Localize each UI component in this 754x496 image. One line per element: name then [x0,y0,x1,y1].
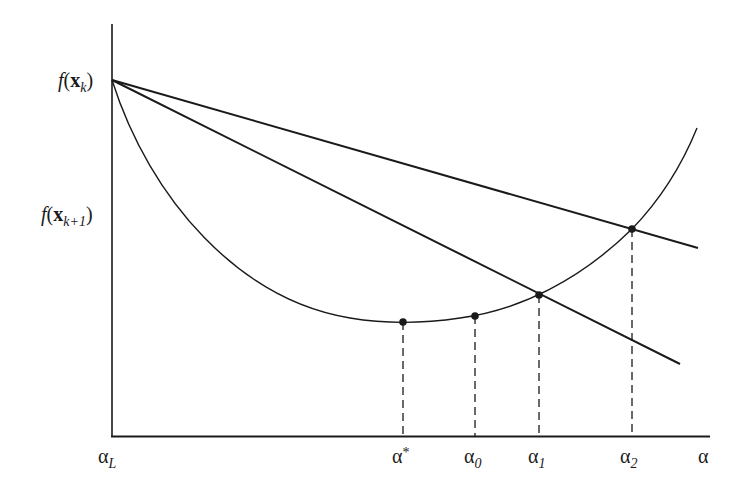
axes [111,24,710,437]
alpha-symbol: α [528,445,538,467]
point-alpha-2 [628,225,636,233]
alpha-symbol: α [698,445,708,467]
x-label-alpha-0: α0 [464,446,481,471]
subscript: L [108,456,116,471]
alpha-symbol: α [620,445,630,467]
shallow-secant-line [112,80,698,248]
superscript: * [402,445,409,460]
x-label-alpha-1: α1 [528,446,545,471]
function-curve [112,80,697,322]
x-symbol: x [70,69,80,91]
subscript: 2 [630,456,637,471]
x-symbol: x [53,203,63,225]
alpha-symbol: α [98,445,108,467]
y-label-f-xk1: f(xk+1) [41,204,93,229]
paren: ) [86,69,93,91]
subscript: 0 [474,456,481,471]
steep-secant-line [112,80,680,364]
point-alpha-star [399,318,407,326]
x-axis-label-alpha: α [698,446,708,466]
subscript: k+1 [63,214,86,229]
line-search-diagram [0,0,754,496]
alpha-symbol: α [464,445,474,467]
x-label-alpha-L: αL [98,446,116,471]
point-alpha-1 [535,291,543,299]
x-label-alpha-2: α2 [620,446,637,471]
subscript: 1 [538,456,545,471]
dashed-drop-lines [403,229,632,436]
x-label-alpha-star: α* [392,446,409,466]
point-alpha-0 [471,312,479,320]
y-label-f-xk: f(xk) [58,70,93,95]
alpha-symbol: α [392,445,402,467]
paren: ) [86,203,93,225]
